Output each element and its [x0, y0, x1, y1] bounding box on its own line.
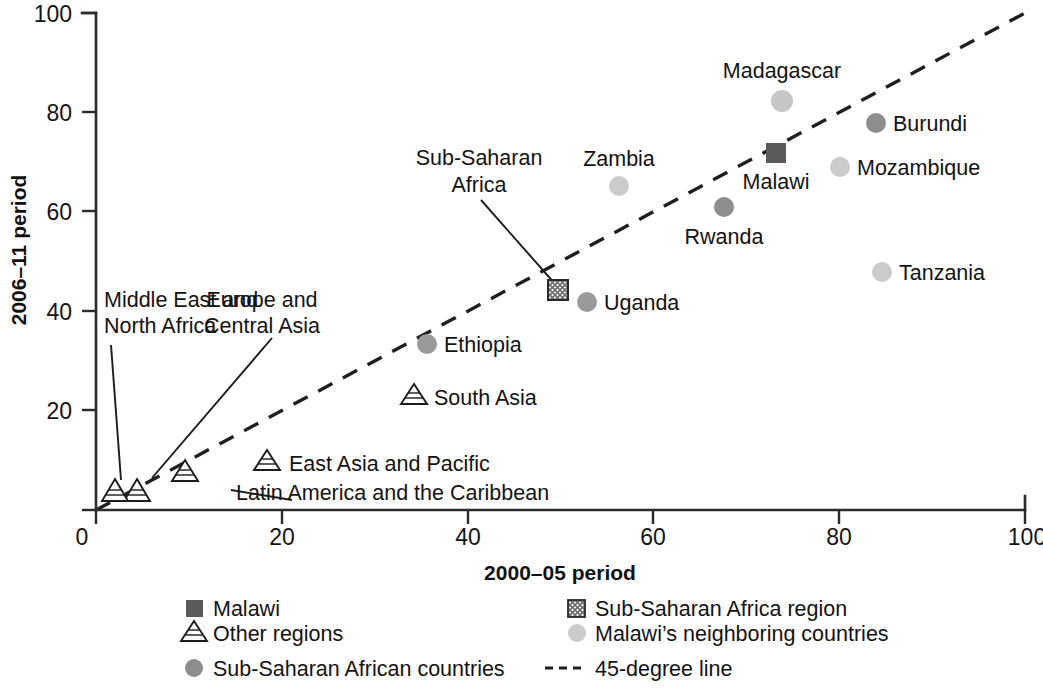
annotation-label-middle-east-north-africa-line1: Middle East and — [104, 288, 258, 312]
leader-sub-saharan-africa — [481, 200, 556, 285]
point-label-south-asia: South Asia — [434, 386, 537, 410]
y-tick-label-80: 80 — [46, 100, 72, 126]
point-label-uganda: Uganda — [604, 291, 679, 315]
y-tick-label-100: 100 — [34, 1, 72, 27]
annotation-label-europe-central-asia-line2: Central Asia — [204, 314, 320, 338]
y-axis-title: 2006–11 period — [7, 175, 30, 326]
y-tick-label-40: 40 — [46, 299, 72, 325]
forty-five-degree-line — [96, 13, 1025, 510]
point-label-rwanda: Rwanda — [685, 225, 764, 249]
x-axis-title: 2000–05 period — [484, 561, 636, 584]
legend-marker-malawi — [186, 600, 203, 617]
point-rwanda[interactable] — [714, 197, 734, 217]
legend-marker-neighboring-countries — [568, 624, 586, 642]
plot-svg: 100 80 60 40 20 0 20 40 60 80 100 2000–0… — [0, 0, 1043, 688]
legend-label-sub-saharan-africa-region: Sub-Saharan Africa region — [595, 597, 847, 621]
legend-label-neighboring-countries: Malawi’s neighboring countries — [595, 622, 889, 646]
legend-marker-sub-saharan-africa-region — [568, 600, 585, 617]
point-madagascar[interactable] — [771, 90, 793, 112]
point-burundi[interactable] — [866, 113, 886, 133]
point-label-tanzania: Tanzania — [899, 261, 985, 285]
annotation-label-sub-saharan-africa-line1: Sub-Saharan — [416, 146, 543, 170]
leader-europe-central-asia — [152, 338, 272, 478]
point-label-east-asia-and-pacific: East Asia and Pacific — [289, 452, 490, 476]
x-tick-label-60: 60 — [640, 524, 666, 550]
y-tick-label-60: 60 — [46, 199, 72, 225]
legend-label-other-regions: Other regions — [213, 622, 343, 646]
legend-marker-other-regions — [181, 621, 207, 641]
point-middle-east-and-north-africa[interactable] — [102, 479, 128, 501]
legend-label-sub-saharan-african-countries: Sub-Saharan African countries — [213, 657, 505, 681]
point-uganda[interactable] — [577, 292, 597, 312]
point-label-ethiopia: Ethiopia — [444, 333, 522, 357]
point-malawi[interactable] — [766, 143, 786, 163]
x-tick-label-20: 20 — [269, 524, 295, 550]
x-tick-label-80: 80 — [826, 524, 852, 550]
point-south-asia[interactable] — [401, 384, 427, 404]
legend-marker-sub-saharan-african-countries — [185, 659, 203, 677]
point-label-malawi: Malawi — [743, 170, 810, 194]
point-sub-saharan-africa-region[interactable] — [548, 280, 568, 300]
point-mozambique[interactable] — [830, 157, 850, 177]
annotation-label-middle-east-north-africa-line2: North Africa — [104, 314, 216, 338]
leader-middle-east-north-africa — [111, 345, 121, 480]
point-label-burundi: Burundi — [893, 112, 967, 136]
x-tick-label-100: 100 — [1008, 524, 1043, 550]
point-latin-america-and-the-caribbean[interactable] — [172, 460, 198, 481]
point-label-latin-america-and-the-caribbean: Latin America and the Caribbean — [236, 481, 549, 505]
y-tick-label-0: 0 — [76, 524, 89, 550]
scatter-chart: 100 80 60 40 20 0 20 40 60 80 100 2000–0… — [0, 0, 1043, 688]
legend-label-forty-five-degree-line: 45-degree line — [595, 657, 732, 681]
point-tanzania[interactable] — [872, 262, 892, 282]
y-tick-label-20: 20 — [46, 398, 72, 424]
point-east-asia-and-pacific[interactable] — [254, 450, 280, 470]
point-label-madagascar: Madagascar — [723, 59, 841, 83]
annotation-label-sub-saharan-africa-line2: Africa — [452, 173, 507, 197]
point-label-mozambique: Mozambique — [857, 156, 980, 180]
point-ethiopia[interactable] — [417, 334, 437, 354]
point-label-zambia: Zambia — [583, 147, 655, 171]
legend-label-malawi: Malawi — [213, 597, 280, 621]
x-tick-label-40: 40 — [455, 524, 481, 550]
point-zambia[interactable] — [609, 176, 629, 196]
